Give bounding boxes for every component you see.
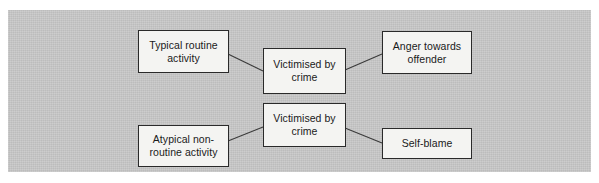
node-label: Typical routine activity	[146, 39, 220, 65]
node-self-blame[interactable]: Self-blame	[382, 128, 472, 159]
node-victimised-by-crime-top[interactable]: Victimised by crime	[263, 48, 346, 94]
node-anger-towards-offender[interactable]: Anger towards offender	[382, 31, 472, 74]
node-label: Victimised by crime	[270, 58, 338, 84]
node-victimised-by-crime-bottom[interactable]: Victimised by crime	[263, 103, 346, 147]
figure-canvas: Typical routine activity Victimised by c…	[0, 0, 599, 183]
node-label: Victimised by crime	[270, 112, 338, 138]
node-typical-routine-activity[interactable]: Typical routine activity	[138, 30, 229, 73]
node-label: Anger towards offender	[390, 40, 464, 66]
node-label: Self-blame	[399, 137, 456, 150]
node-label: Atypical non- routine activity	[147, 133, 221, 159]
node-atypical-non-routine-activity[interactable]: Atypical non- routine activity	[138, 125, 229, 167]
